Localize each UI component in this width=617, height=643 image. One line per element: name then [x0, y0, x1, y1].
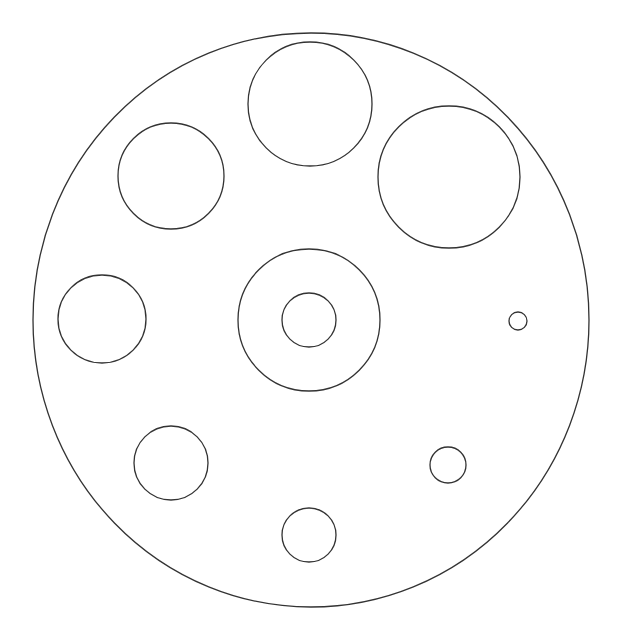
- right-small-circle: [509, 312, 527, 330]
- bottom-circle: [282, 508, 336, 562]
- outer-boundary-circle: [33, 33, 589, 607]
- top-circle: [248, 42, 372, 166]
- upper-right-circle: [378, 106, 520, 248]
- circle-diagram: [0, 0, 617, 643]
- upper-left-circle: [118, 123, 224, 229]
- lower-left-circle: [134, 426, 208, 500]
- left-circle: [58, 275, 146, 363]
- lower-right-circle: [430, 447, 466, 483]
- center-outer-ring: [238, 249, 380, 391]
- inner-circles-group: [58, 42, 527, 562]
- center-inner-circle: [282, 293, 336, 347]
